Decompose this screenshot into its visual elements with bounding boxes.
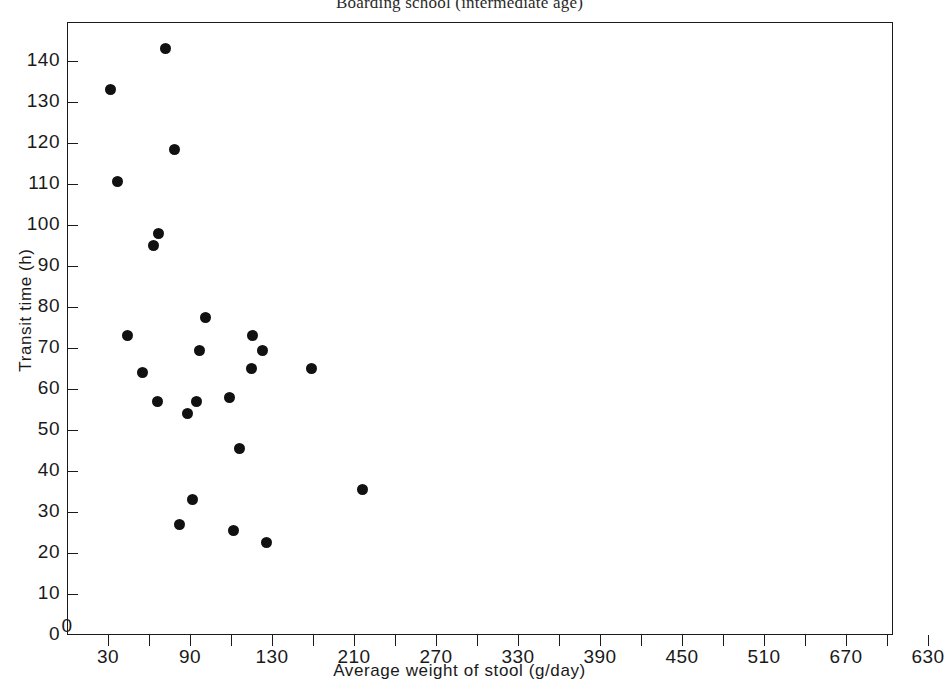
x-axis-tick	[395, 635, 396, 646]
x-axis-tick	[764, 635, 765, 646]
x-axis-tick	[231, 635, 232, 646]
x-axis-tick	[846, 635, 847, 646]
data-point	[182, 408, 193, 419]
y-axis-tick-label: 10	[16, 582, 60, 604]
x-axis-tick	[887, 635, 888, 646]
x-axis-tick	[108, 635, 109, 646]
data-point	[160, 43, 171, 54]
y-axis-tick-label: 130	[16, 90, 60, 112]
data-point	[228, 525, 239, 536]
x-axis-tick	[641, 635, 642, 646]
x-axis-title: Average weight of stool (g/day)	[0, 661, 919, 681]
x-axis-tick	[600, 635, 601, 646]
data-point	[153, 228, 164, 239]
x-axis-tick	[682, 635, 683, 646]
data-point	[148, 240, 159, 251]
y-axis-tick-label: 30	[16, 500, 60, 522]
data-point	[257, 345, 268, 356]
data-point	[247, 330, 258, 341]
x-axis-tick	[313, 635, 314, 646]
data-point	[169, 144, 180, 155]
x-axis-tick	[928, 635, 929, 646]
y-axis-tick-label: 140	[16, 49, 60, 71]
data-point	[246, 363, 257, 374]
x-axis-tick	[436, 635, 437, 646]
data-point	[152, 396, 163, 407]
x-axis-tick	[354, 635, 355, 646]
data-point	[112, 176, 123, 187]
x-axis-tick	[518, 635, 519, 646]
data-point	[194, 345, 205, 356]
y-axis-tick-label: 120	[16, 131, 60, 153]
data-point	[234, 443, 245, 454]
y-axis-tick-label: 40	[16, 459, 60, 481]
data-point	[174, 519, 185, 530]
x-axis-tick	[559, 635, 560, 646]
x-axis-tick	[190, 635, 191, 646]
x-axis-tick	[149, 635, 150, 646]
x-axis-tick	[272, 635, 273, 646]
x-axis-tick	[477, 635, 478, 646]
x-axis-tick	[723, 635, 724, 646]
data-point	[261, 537, 272, 548]
data-point	[306, 363, 317, 374]
data-point	[200, 312, 211, 323]
x-axis-tick	[805, 635, 806, 646]
data-point	[191, 396, 202, 407]
data-point	[224, 392, 235, 403]
y-axis-title: Transit time (h)	[16, 180, 36, 440]
data-point	[105, 84, 116, 95]
plot-area	[67, 22, 893, 635]
data-point	[187, 494, 198, 505]
y-axis-tick-label: 20	[16, 541, 60, 563]
chart-title: Boarding school (intermediate age)	[0, 0, 919, 15]
data-point	[357, 484, 368, 495]
data-point	[122, 330, 133, 341]
data-point	[137, 367, 148, 378]
